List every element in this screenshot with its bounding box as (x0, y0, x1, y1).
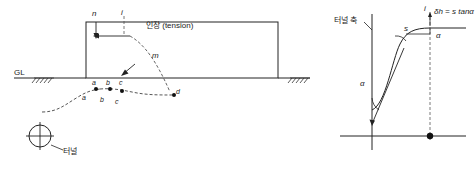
label-alpha-left: α (360, 79, 365, 88)
point-c (120, 89, 124, 93)
label-gl: GL (14, 68, 25, 77)
hatch-right (288, 78, 310, 83)
excavation-block (86, 22, 278, 78)
label-s: s (404, 24, 408, 33)
label-tension: 인장 (tension) (146, 19, 193, 30)
tunnel-axis-leader (364, 22, 372, 30)
label-b-upper: b (106, 79, 110, 86)
label-tunnel: 터널 (63, 145, 77, 156)
tunnel-leader (51, 145, 63, 150)
slip-curve (130, 36, 170, 92)
point-a (94, 87, 98, 91)
settlement-curve-left (42, 89, 100, 112)
alpha-chord-arrow (370, 120, 376, 127)
label-m: m (152, 51, 159, 60)
label-c-upper: c (119, 79, 123, 86)
alpha-chord-line (372, 48, 404, 124)
label-c-lower: c (115, 98, 119, 105)
label-alpha-top: α (436, 31, 441, 40)
displacement-curve (372, 28, 430, 110)
label-i: i (121, 8, 123, 17)
label-d: d (176, 88, 180, 95)
label-n: n (92, 9, 96, 18)
dh-arrow-head (428, 12, 432, 17)
inflection-point-marker (427, 133, 433, 139)
point-b (108, 87, 112, 91)
label-a-lower: a (82, 94, 86, 101)
label-b-lower: b (100, 96, 104, 103)
label-delta-h: δh = s tanα (434, 7, 474, 16)
figure-root: GL n i m 인장 (tension) a b c d a b c 터널 터… (0, 0, 475, 171)
hatch-left (32, 78, 54, 83)
label-tunnel-axis: 터널 축 (334, 14, 357, 25)
label-a-upper: a (92, 79, 96, 86)
label-i-right: i (424, 4, 426, 13)
